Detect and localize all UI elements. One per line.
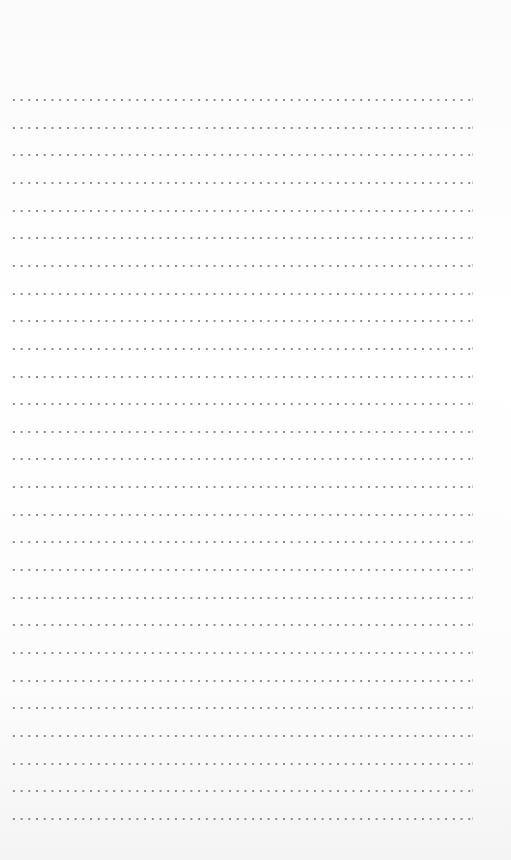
- dotted-line: [10, 763, 471, 765]
- dotted-line: [10, 486, 471, 488]
- dotted-line: [10, 320, 471, 322]
- dotted-line: [10, 790, 471, 792]
- dotted-line: [10, 376, 471, 378]
- dotted-line: [10, 458, 471, 460]
- dotted-line: [10, 514, 471, 516]
- dotted-line: [10, 348, 471, 350]
- dotted-line: [10, 818, 471, 820]
- dotted-line: [10, 707, 471, 709]
- dotted-line: [10, 431, 471, 433]
- dotted-line: [10, 624, 471, 626]
- dotted-line: [10, 182, 471, 184]
- dotted-line: [10, 210, 471, 212]
- dotted-line: [10, 680, 471, 682]
- dotted-line: [10, 127, 471, 129]
- dotted-line: [10, 541, 471, 543]
- dotted-line: [10, 569, 471, 571]
- dotted-line: [10, 597, 471, 599]
- dotted-line: [10, 154, 471, 156]
- lined-paper-page: [0, 0, 511, 860]
- dotted-line: [10, 652, 471, 654]
- dotted-lines-container: [0, 0, 511, 860]
- dotted-line: [10, 403, 471, 405]
- dotted-line: [10, 735, 471, 737]
- dotted-line: [10, 237, 471, 239]
- dotted-line: [10, 99, 471, 101]
- dotted-line: [10, 265, 471, 267]
- dotted-line: [10, 293, 471, 295]
